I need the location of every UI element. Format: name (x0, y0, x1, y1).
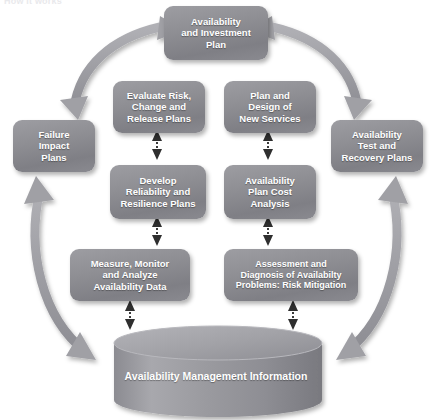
dotted-connector-measure-datastore (125, 300, 135, 330)
availability-management-process-diagram: How it works (0, 0, 432, 420)
availability-management-information-cylinder (114, 326, 322, 417)
node-availability-plan-cost-analysis[interactable]: Availability Plan Cost Analysis (224, 165, 316, 219)
dotted-connector-plan-cost (263, 130, 273, 160)
dotted-connector-assessment-datastore (288, 300, 298, 330)
node-plan-and-design-of-new-services[interactable]: Plan and Design of New Services (224, 81, 316, 133)
node-evaluate-risk-change-and-release-plans[interactable]: Evaluate Risk, Change and Release Plans (113, 81, 205, 133)
node-failure-impact-plans[interactable]: Failure Impact Plans (13, 120, 95, 172)
node-measure-monitor-and-analyze-availability-data[interactable]: Measure, Monitor and Analyze Availabilit… (70, 249, 190, 301)
node-availability-test-and-recovery-plans[interactable]: Availability Test and Recovery Plans (331, 120, 423, 172)
dotted-connector-develop-measure (152, 216, 162, 246)
connector-layer (0, 0, 432, 420)
node-develop-reliability-and-resilience-plans[interactable]: Develop Reliability and Resilience Plans (110, 165, 206, 219)
dotted-connector-evaluate-develop (152, 130, 162, 160)
dotted-connector-cost-assessment (263, 216, 273, 246)
node-assessment-and-diagnosis-of-availability-problems[interactable]: Assessment and Diagnosis of Availabilty … (224, 249, 358, 301)
node-availability-and-investment-plan[interactable]: Availability and Investment Plan (164, 6, 268, 60)
